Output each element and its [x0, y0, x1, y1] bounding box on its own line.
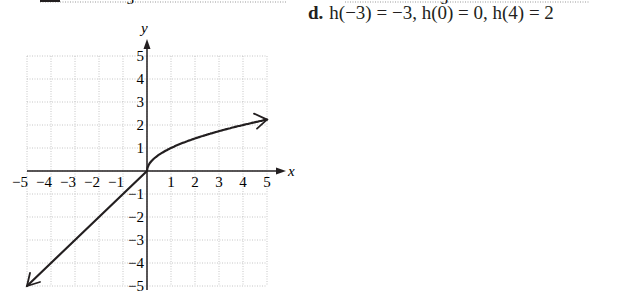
- x-tick-label: 1: [167, 174, 175, 190]
- x-axis-label: x: [287, 163, 295, 179]
- x-tick-label: 4: [239, 174, 247, 190]
- y-tick-label: 3: [137, 94, 145, 110]
- y-tick-label: −3: [128, 232, 144, 248]
- answer-letter: d.: [308, 2, 323, 23]
- x-tick-label: −5: [12, 174, 28, 190]
- answer-expression: h(−3) = −3, h(0) = 0, h(4) = 2: [329, 2, 554, 23]
- x-axis-arrow-icon: [276, 168, 286, 175]
- function-graph: −5 −5 x y −5−4−3−2−112345−5−4−3−2−112345: [0, 0, 626, 299]
- answer-d: d.h(−3) = −3, h(0) = 0, h(4) = 2: [308, 2, 554, 24]
- x-tick-label: 5: [263, 174, 271, 190]
- y-tick-label: 1: [137, 140, 145, 156]
- y-tick-label: −4: [128, 255, 144, 271]
- x-tick-label: −4: [36, 174, 52, 190]
- x-tick-label: 2: [191, 174, 199, 190]
- y-axis-arrow-icon: [144, 39, 151, 49]
- y-tick-label: −2: [128, 209, 144, 225]
- y-axis-label: y: [139, 20, 148, 36]
- x-tick-label: −1: [108, 174, 124, 190]
- x-tick-label: −3: [60, 174, 76, 190]
- axes: [27, 39, 286, 290]
- x-tick-label: −2: [84, 174, 100, 190]
- y-tick-label: −5: [128, 278, 144, 294]
- y-tick-label: 5: [137, 48, 145, 64]
- y-tick-label: 4: [137, 71, 145, 87]
- x-tick-label: 3: [215, 174, 223, 190]
- fragment-label-left: −5: [118, 0, 134, 7]
- y-tick-label: 2: [137, 117, 145, 133]
